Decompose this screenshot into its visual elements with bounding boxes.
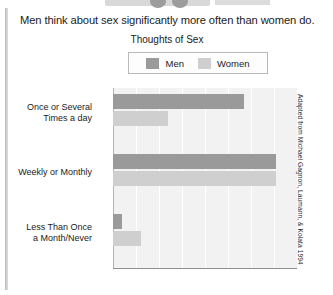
- legend-swatch-women-icon: [198, 58, 211, 69]
- bar-group-0: Once or SeveralTimes a day: [8, 94, 326, 144]
- bar-men-2: [113, 214, 122, 229]
- category-label-line: Weekly or Monthly: [0, 167, 92, 178]
- category-label-line: Once or Several: [0, 102, 92, 113]
- category-label-line: a Month/Never: [0, 233, 92, 244]
- legend-swatch-men-icon: [146, 58, 159, 69]
- bleed-dot-1: [150, 0, 166, 8]
- legend-label-men: Men: [165, 58, 183, 69]
- figure-root: Men think about sex significantly more o…: [0, 0, 333, 295]
- category-label-2: Less Than Oncea Month/Never: [0, 222, 92, 244]
- bleed-dot-2: [172, 0, 188, 8]
- bar-women-0: [113, 111, 168, 126]
- plot-wrapper: Once or SeveralTimes a dayWeekly or Mont…: [8, 84, 326, 284]
- category-label-line: Times a day: [0, 113, 92, 124]
- page-bleed-artifact: [0, 0, 333, 8]
- category-label-line: Less Than Once: [0, 222, 92, 233]
- bar-women-2: [113, 231, 141, 246]
- legend-item-men: Men: [146, 58, 183, 69]
- bleed-tail: [215, 0, 270, 5]
- chart-title: Thoughts of Sex: [8, 34, 326, 45]
- headline-text: Men think about sex significantly more o…: [20, 14, 320, 26]
- category-label-1: Weekly or Monthly: [0, 167, 92, 178]
- bar-men-0: [113, 94, 244, 109]
- legend-label-women: Women: [217, 58, 250, 69]
- bar-group-1: Weekly or Monthly: [8, 154, 326, 204]
- bar-women-1: [113, 171, 276, 186]
- legend-item-women: Women: [198, 58, 250, 69]
- attribution-text: Adapted from Michael Gagnon, Laumann, & …: [297, 94, 304, 265]
- bar-group-2: Less Than Oncea Month/Never: [8, 214, 326, 264]
- chart-legend: Men Women: [128, 52, 268, 74]
- category-label-0: Once or SeveralTimes a day: [0, 102, 92, 124]
- figure-box: Men think about sex significantly more o…: [5, 8, 329, 290]
- x-axis-line: [113, 268, 297, 269]
- bar-men-1: [113, 154, 276, 169]
